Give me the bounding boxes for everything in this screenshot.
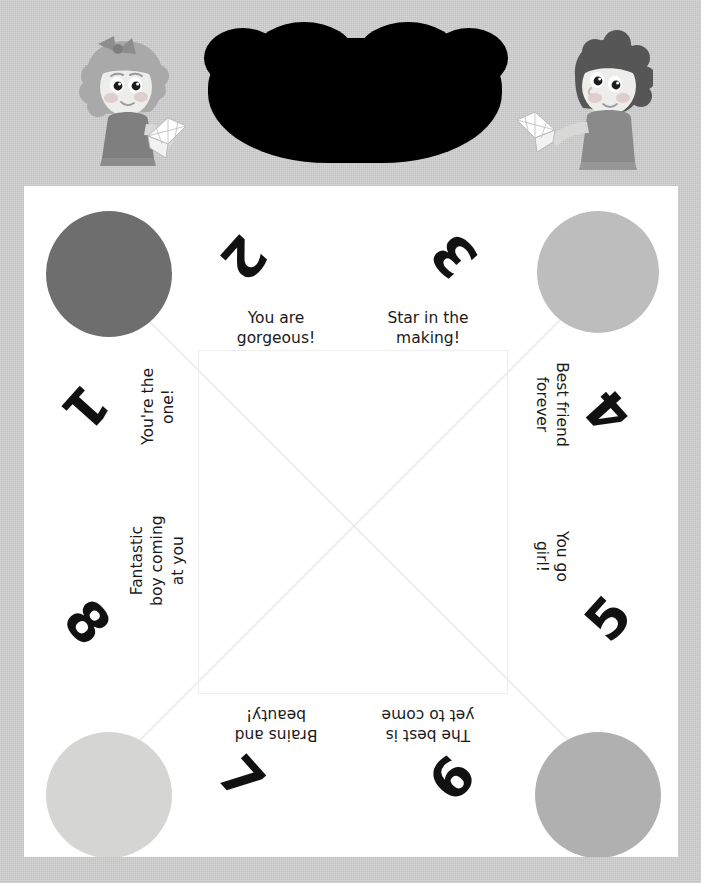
- number-4: 4: [576, 379, 641, 443]
- redacted-title-banner: [208, 38, 502, 163]
- fortune-text-8: Fantastic boy coming at you: [127, 499, 188, 623]
- number-8: 8: [54, 591, 119, 655]
- number-3: 3: [422, 223, 487, 287]
- fortune-text-1: You're the one!: [138, 348, 179, 464]
- number-6: 6: [420, 747, 485, 811]
- corner-circle-bottom-left: [46, 732, 172, 857]
- number-7: 7: [208, 747, 273, 811]
- number-1: 1: [52, 375, 117, 439]
- fortune-text-4: Best friend forever: [532, 348, 573, 460]
- fortune-text-2: You are gorgeous!: [220, 308, 332, 349]
- boy-character-illustration: [503, 30, 653, 170]
- fortune-text-3: Star in the making!: [372, 308, 484, 349]
- corner-circle-bottom-right: [535, 732, 661, 857]
- fortune-text-5: You go girl!: [532, 500, 573, 612]
- inner-square-fold-guide: [198, 350, 508, 694]
- corner-circle-top-left: [46, 211, 172, 337]
- number-2: 2: [210, 225, 275, 289]
- fortune-text-7: Brains and beauty!: [220, 704, 332, 745]
- header-band: [0, 0, 701, 186]
- fortune-text-6: The best is yet to come: [372, 704, 484, 745]
- corner-circle-top-right: [537, 211, 659, 333]
- printable-sheet: 1 2 3 4 5 6 7 8 You are gorgeous! Star i…: [24, 186, 678, 857]
- number-5: 5: [576, 587, 641, 651]
- girl-character-illustration: [64, 32, 190, 168]
- banner-bump-left: [204, 28, 282, 88]
- banner-bump-right: [430, 28, 508, 88]
